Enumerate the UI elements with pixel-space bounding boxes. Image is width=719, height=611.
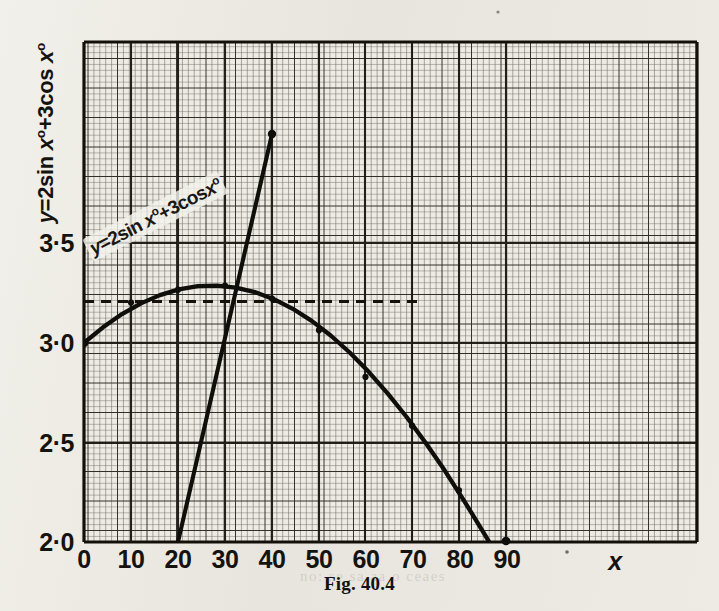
x-tick-40: 40 [259,545,286,573]
y-tick-2-5: 2·5 [39,429,74,457]
x-tick-20: 20 [165,545,192,573]
x-axis-tick-labels: 0 10 20 30 40 50 60 70 80 90 [77,545,520,573]
curve-endpoint-90 [502,537,511,546]
figure-caption: Fig. 40.4 [0,573,719,595]
y-tick-2-0: 2·0 [39,528,74,556]
x-tick-0: 0 [77,545,90,573]
x-tick-60: 60 [353,545,380,573]
x-tick-90: 90 [494,545,521,573]
y-axis-tick-labels: 2·0 2·5 3·0 3·5 [39,229,74,556]
x-tick-30: 30 [212,545,239,573]
x-tick-80: 80 [447,545,474,573]
graph-svg: 0 10 20 30 40 50 60 70 80 90 x 2·0 2·5 3… [0,0,719,611]
x-axis-label: x [606,547,623,575]
y-axis-label: y=2sin xo+3cos xo [33,23,59,243]
y-tick-3-0: 3·0 [39,329,74,357]
print-speck [565,550,569,554]
x-tick-50: 50 [306,545,333,573]
print-speck-top [496,10,499,13]
figure-graph: 0 10 20 30 40 50 60 70 80 90 x 2·0 2·5 3… [0,0,719,611]
tangent-line-endpoint [268,130,276,138]
x-tick-70: 70 [400,545,427,573]
x-tick-10: 10 [118,545,145,573]
